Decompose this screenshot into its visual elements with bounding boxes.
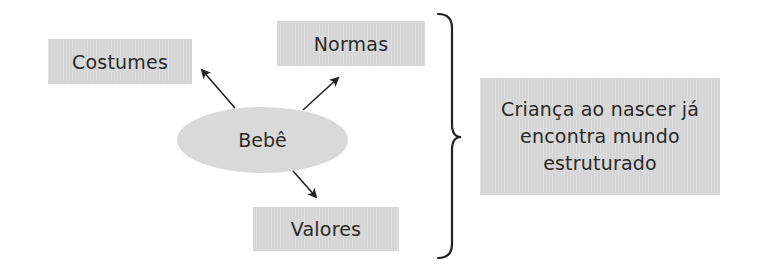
costumes-label: Costumes xyxy=(72,51,168,73)
conclusion-node: Criança ao nascer já encontra mundo estr… xyxy=(480,78,720,195)
arrow-to-normas xyxy=(303,78,338,110)
bebe-label: Bebê xyxy=(238,129,286,151)
valores-node: Valores xyxy=(253,207,399,251)
arrow-to-valores xyxy=(293,171,316,197)
normas-label: Normas xyxy=(314,33,389,55)
conclusion-label: Criança ao nascer já encontra mundo estr… xyxy=(486,96,714,177)
valores-label: Valores xyxy=(291,218,361,240)
curly-brace xyxy=(438,14,461,258)
arrow-to-costumes xyxy=(202,70,235,108)
normas-node: Normas xyxy=(277,21,425,66)
bebe-node: Bebê xyxy=(177,107,348,173)
costumes-node: Costumes xyxy=(48,39,192,84)
